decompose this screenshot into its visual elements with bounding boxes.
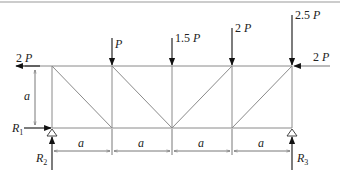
truss-diagram: 2 P P 1.5 P 2 P 2.5 P 2 P a R1 R2 R3 a a… — [0, 0, 340, 177]
height-dimension-label: a — [24, 89, 30, 103]
truss-members — [25, 66, 292, 128]
load-right-label: 2 P — [313, 50, 330, 64]
diagonal-4 — [232, 66, 292, 128]
reaction-r2-label: R2 — [35, 151, 47, 167]
reaction-r3-label: R3 — [296, 151, 308, 167]
span-4-label: a — [258, 136, 264, 150]
right-roller-support-icon — [287, 129, 297, 136]
span-3-label: a — [198, 136, 204, 150]
load-left-label: 2 P — [16, 51, 33, 65]
left-pin-support-icon — [47, 129, 57, 136]
load-2-label: 1.5 P — [175, 31, 201, 45]
load-4-label: 2.5 P — [295, 8, 321, 22]
span-dimensions — [54, 129, 290, 155]
span-1-label: a — [78, 136, 84, 150]
diagonal-1 — [52, 66, 112, 128]
load-1-label: P — [114, 37, 123, 51]
diagonal-2 — [112, 66, 172, 128]
load-3-label: 2 P — [235, 21, 252, 35]
load-arrows — [16, 15, 330, 66]
reaction-r1-label: R1 — [11, 121, 23, 137]
span-2-label: a — [138, 136, 144, 150]
diagonal-3 — [172, 66, 232, 128]
